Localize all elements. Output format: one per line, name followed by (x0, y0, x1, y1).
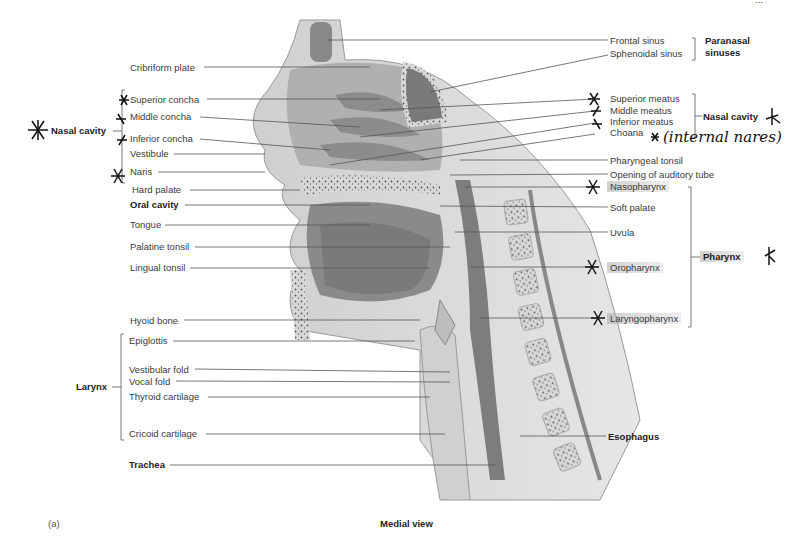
page-number-fragment: ... (755, 0, 763, 5)
label-frontal-sinus: Frontal sinus (610, 35, 664, 46)
label-vestibular-fold: Vestibular fold (129, 364, 189, 375)
label-epiglottis: Epiglottis (129, 335, 168, 346)
label-superior-concha: Superior concha (130, 94, 199, 105)
label-laryngopharynx: Laryngopharynx (607, 313, 681, 324)
label-inferior-meatus: Inferior meatus (610, 116, 673, 127)
label-middle-concha: Middle concha (130, 111, 191, 122)
label-trachea: Trachea (129, 459, 165, 470)
label-opening-auditory-tube: Opening of auditory tube (610, 169, 714, 180)
label-cribriform-plate: Cribriform plate (130, 62, 195, 73)
label-nasopharynx: Nasopharynx (607, 181, 669, 192)
label-pharyngeal-tonsil: Pharyngeal tonsil (610, 155, 683, 166)
group-larynx: Larynx (76, 381, 107, 392)
label-hyoid-bone: Hyoid bone (130, 315, 178, 326)
label-naris: Naris (130, 166, 152, 177)
label-vestibule: Vestibule (130, 148, 169, 159)
figure-letter: (a) (48, 518, 60, 529)
group-nasal-cavity-right: Nasal cavity (703, 111, 758, 122)
label-cricoid-cartilage: Cricoid cartilage (129, 428, 197, 439)
label-palatine-tonsil: Palatine tonsil (130, 241, 189, 252)
label-tongue: Tongue (130, 219, 161, 230)
group-pharynx: Pharynx (700, 251, 744, 262)
handwritten-internal-nares: (internal nares) (663, 128, 782, 146)
label-thyroid-cartilage: Thyroid cartilage (129, 391, 199, 402)
label-vocal-fold: Vocal fold (129, 376, 170, 387)
group-nasal-cavity-left: Nasal cavity (51, 125, 106, 136)
label-middle-meatus: Middle meatus (610, 105, 672, 116)
label-oropharynx: Oropharynx (607, 262, 663, 273)
label-oral-cavity: Oral cavity (130, 199, 179, 210)
view-caption: Medial view (380, 518, 433, 529)
label-lingual-tonsil: Lingual tonsil (130, 262, 185, 273)
label-choana: Choana (610, 127, 643, 138)
group-paranasal-sinuses-line2: sinuses (705, 47, 740, 58)
group-paranasal-sinuses-line1: Paranasal (705, 35, 750, 46)
label-sphenoidal-sinus: Sphenoidal sinus (610, 48, 682, 59)
label-superior-meatus: Superior meatus (610, 93, 680, 104)
label-esophagus: Esophagus (608, 431, 659, 442)
label-soft-palate: Soft palate (610, 202, 655, 213)
anatomy-illustration (0, 0, 800, 552)
label-uvula: Uvula (610, 227, 634, 238)
label-hard-palate: Hard palate (132, 184, 181, 195)
label-inferior-concha: Inferior concha (130, 133, 193, 144)
